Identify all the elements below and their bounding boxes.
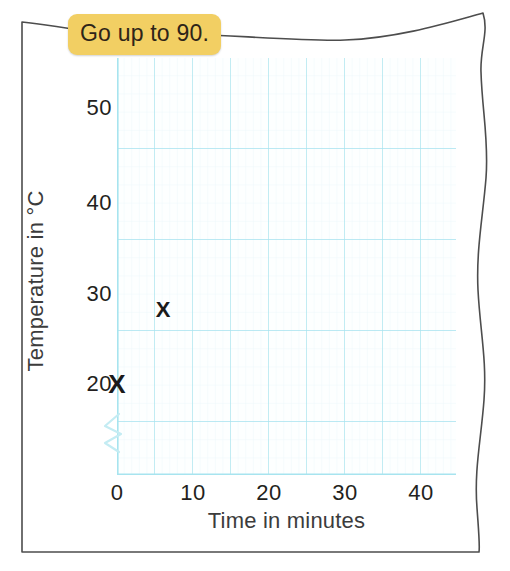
graph-paper-grid [117,58,456,475]
y-axis-title-wrap: Temperature in °C [0,0,1,1]
x-tick-40: 40 [408,480,433,506]
x-tick-30: 30 [332,480,357,506]
data-point-marker[interactable]: X [156,299,171,321]
y-axis-title: Temperature in °C [23,141,49,421]
x-axis-tick-labels: 0 10 20 30 40 [117,480,456,510]
x-axis-title: Time in minutes [117,508,456,534]
y-tick-40: 40 [60,190,112,216]
y-tick-50: 50 [60,95,112,121]
y-tick-30: 30 [60,281,112,307]
y-tick-20: 20 [60,371,112,397]
x-tick-10: 10 [180,480,205,506]
x-tick-0: 0 [111,480,124,506]
callout-hint-bubble[interactable]: Go up to 90. [68,14,221,55]
y-axis-tick-labels: 50 40 30 20 [60,58,112,475]
x-tick-20: 20 [256,480,281,506]
chart-plot-area: X X [117,58,456,475]
